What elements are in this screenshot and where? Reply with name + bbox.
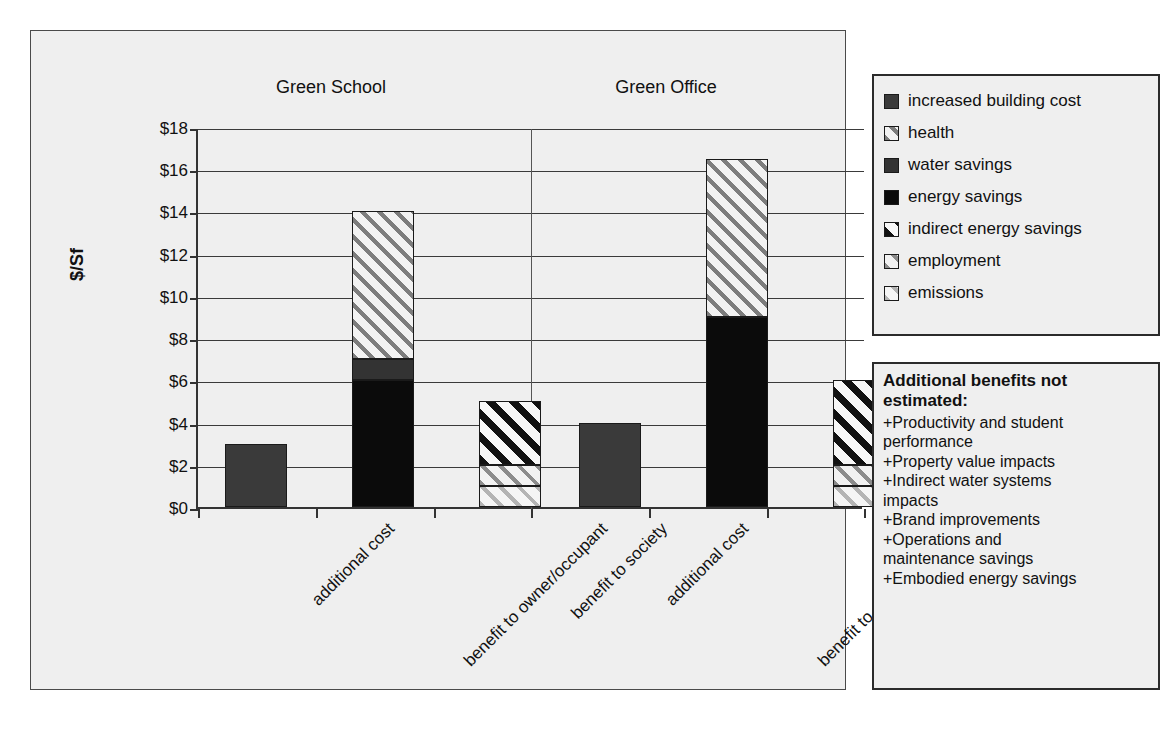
y-tick-mark-0 (190, 509, 198, 511)
bar-segment-emissions[interactable] (479, 486, 541, 507)
legend-label-health: health (908, 123, 954, 143)
y-axis-title: $/Sf (67, 248, 88, 281)
bar-segment-indirect-energy-savings[interactable] (479, 401, 541, 464)
bar-segment-energy-savings[interactable] (706, 317, 768, 507)
notes-heading: Additional benefits not estimated: (883, 371, 1149, 412)
legend-swatch-employment-icon (884, 254, 899, 269)
y-tick-label-8: $8 (169, 330, 188, 350)
legend-swatch-health-icon (884, 126, 899, 141)
y-tick-mark-14 (190, 213, 198, 215)
legend-item-health[interactable]: health (884, 117, 1148, 149)
y-tick-mark-4 (190, 425, 198, 427)
group-title-green-school: Green School (221, 77, 441, 98)
y-tick-mark-2 (190, 467, 198, 469)
x-tick-1 (316, 509, 318, 518)
note-line-4: impacts (883, 491, 1149, 511)
y-tick-mark-16 (190, 171, 198, 173)
legend-label-energy-savings: energy savings (908, 187, 1022, 207)
legend-label-indirect-energy-savings: indirect energy savings (908, 219, 1082, 239)
bar-green-office-additional-cost[interactable] (579, 423, 641, 507)
legend-swatch-increased-building-cost-icon (884, 94, 899, 109)
legend-item-increased-building-cost[interactable]: increased building cost (884, 85, 1148, 117)
bar-segment-health[interactable] (706, 159, 768, 317)
legend-item-emissions[interactable]: emissions (884, 277, 1148, 309)
y-tick-mark-10 (190, 298, 198, 300)
x-axis-label-3-additional-cost: additional cost (662, 519, 753, 610)
note-line-5: +Brand improvements (883, 510, 1149, 530)
bar-green-school-benefit-to-society[interactable] (479, 401, 541, 507)
bar-green-school-benefit-to-owner-occupant[interactable] (352, 211, 414, 507)
group-title-green-office: Green Office (556, 77, 776, 98)
legend-item-water-savings[interactable]: water savings (884, 149, 1148, 181)
note-line-8: +Embodied energy savings (883, 569, 1149, 589)
y-tick-label-4: $4 (169, 415, 188, 435)
x-tick-6 (864, 509, 866, 518)
y-tick-mark-8 (190, 340, 198, 342)
legend-swatch-water-savings-icon (884, 158, 899, 173)
bar-segment-water-savings[interactable] (352, 359, 414, 380)
note-line-6: +Operations and (883, 530, 1149, 550)
legend-label-emissions: emissions (908, 283, 984, 303)
bar-segment-increased-building-cost[interactable] (579, 423, 641, 507)
bar-segment-health[interactable] (352, 211, 414, 359)
legend: increased building costhealthwater savin… (872, 74, 1160, 336)
legend-item-employment[interactable]: employment (884, 245, 1148, 277)
bar-segment-employment[interactable] (479, 465, 541, 486)
bar-green-office-benefit-to-owner-occupant[interactable] (706, 159, 768, 507)
bar-segment-increased-building-cost[interactable] (225, 444, 287, 507)
y-tick-label-2: $2 (169, 457, 188, 477)
note-line-7: maintenance savings (883, 549, 1149, 569)
plot-area (196, 129, 862, 509)
x-tick-3 (531, 509, 533, 518)
bar-green-school-additional-cost[interactable] (225, 444, 287, 507)
legend-label-water-savings: water savings (908, 155, 1012, 175)
y-tick-label-16: $16 (160, 161, 188, 181)
legend-label-employment: employment (908, 251, 1001, 271)
x-axis-label-0-additional-cost: additional cost (308, 519, 399, 610)
y-tick-label-14: $14 (160, 203, 188, 223)
chart-frame: Green School Green Office $/Sf $18$16$14… (30, 30, 846, 690)
y-tick-mark-18 (190, 129, 198, 131)
legend-item-energy-savings[interactable]: energy savings (884, 181, 1148, 213)
y-axis-tick-labels: $18$16$14$12$10$8$6$4$2$0 (126, 129, 188, 509)
y-tick-label-0: $0 (169, 499, 188, 519)
legend-label-increased-building-cost: increased building cost (908, 91, 1081, 111)
bar-segment-energy-savings[interactable] (352, 380, 414, 507)
y-tick-mark-12 (190, 256, 198, 258)
x-tick-2 (434, 509, 436, 518)
y-tick-label-18: $18 (160, 119, 188, 139)
legend-swatch-emissions-icon (884, 286, 899, 301)
note-line-1: performance (883, 432, 1149, 452)
legend-swatch-indirect-energy-savings-icon (884, 222, 899, 237)
y-tick-label-10: $10 (160, 288, 188, 308)
legend-swatch-energy-savings-icon (884, 190, 899, 205)
legend-item-indirect-energy-savings[interactable]: indirect energy savings (884, 213, 1148, 245)
note-line-3: +Indirect water systems (883, 471, 1149, 491)
x-tick-5 (767, 509, 769, 518)
note-line-2: +Property value impacts (883, 452, 1149, 472)
notes-lines: +Productivity and studentperformance+Pro… (883, 413, 1149, 589)
y-tick-mark-6 (190, 382, 198, 384)
x-tick-0 (198, 509, 200, 518)
y-tick-label-6: $6 (169, 372, 188, 392)
note-line-0: +Productivity and student (883, 413, 1149, 433)
y-tick-label-12: $12 (160, 246, 188, 266)
additional-benefits-note-box: Additional benefits not estimated: +Prod… (872, 362, 1160, 690)
x-tick-4 (649, 509, 651, 518)
